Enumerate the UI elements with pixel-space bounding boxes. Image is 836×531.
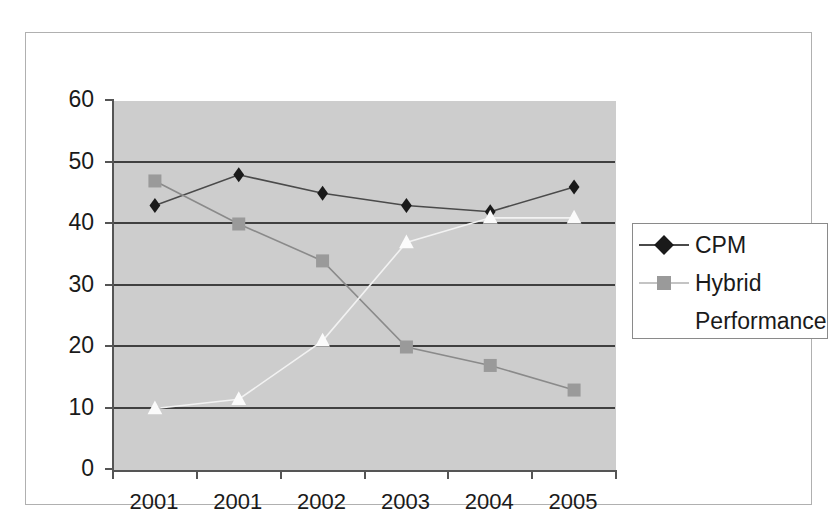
data-point-cpm-1 [233,167,244,182]
data-point-hybrid-1 [232,218,245,231]
x-tick-mark-2 [280,471,282,479]
series-plot [113,101,616,470]
y-tick-mark-10 [105,407,113,409]
data-point-performance-5 [567,210,582,224]
x-tick-mark-6 [615,471,617,479]
x-tick-label-3: 2003 [360,491,450,513]
y-tick-label-30: 30 [34,273,94,296]
y-tick-label-20: 20 [34,334,94,357]
x-tick-label-0: 2001 [109,491,199,513]
chart-figure: 0102030405060 200120012002200320042005 C… [0,0,836,531]
series-line-hybrid [155,181,574,390]
series-line-performance [155,218,574,409]
y-tick-label-0: 0 [34,457,94,480]
legend-key-hybrid [633,264,695,302]
data-point-cpm-5 [569,180,580,195]
data-point-cpm-0 [150,198,161,213]
series-line-cpm [155,175,574,212]
legend-label-hybrid: Hybrid [695,272,761,295]
data-point-cpm-3 [401,198,412,213]
x-tick-label-2: 2002 [277,491,367,513]
y-tick-mark-0 [105,468,113,470]
legend-label-performance: Performance [633,310,827,333]
y-tick-label-50: 50 [34,150,94,173]
y-tick-label-40: 40 [34,211,94,234]
legend-key-cpm [633,226,695,264]
x-tick-mark-5 [531,471,533,479]
square-marker-icon [657,276,671,290]
y-tick-label-10: 10 [34,396,94,419]
x-tick-mark-3 [364,471,366,479]
legend-entry-cpm: CPM [633,226,827,264]
chart-legend: CPM Hybrid Performance [632,223,828,339]
data-point-hybrid-4 [484,359,497,372]
data-point-hybrid-2 [316,254,329,267]
data-point-hybrid-5 [568,384,581,397]
series-performance [148,210,582,414]
data-point-hybrid-3 [400,341,413,354]
x-tick-mark-0 [112,471,114,479]
x-tick-label-4: 2004 [444,491,534,513]
y-tick-label-60: 60 [34,88,94,111]
diamond-marker-icon [654,235,674,255]
x-tick-label-5: 2005 [528,491,618,513]
y-tick-mark-50 [105,161,113,163]
data-point-hybrid-0 [148,174,161,187]
legend-label-cpm: CPM [695,234,746,257]
y-tick-mark-40 [105,222,113,224]
chart-frame: 0102030405060 200120012002200320042005 C… [25,32,812,505]
data-point-cpm-2 [317,186,328,201]
series-hybrid [148,174,580,396]
y-tick-mark-30 [105,284,113,286]
y-tick-mark-20 [105,345,113,347]
x-tick-mark-4 [447,471,449,479]
x-tick-label-1: 2001 [193,491,283,513]
legend-entry-performance: Performance [633,302,827,340]
legend-entry-hybrid: Hybrid [633,264,827,302]
y-tick-mark-60 [105,99,113,101]
x-tick-mark-1 [196,471,198,479]
data-point-performance-1 [231,391,246,405]
